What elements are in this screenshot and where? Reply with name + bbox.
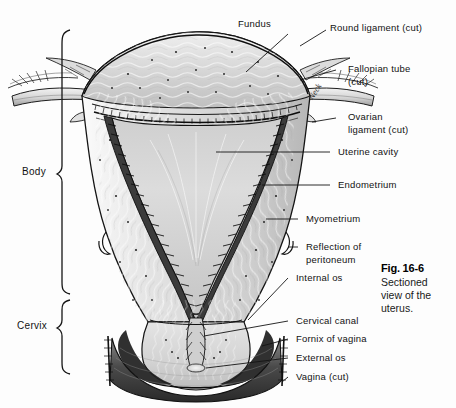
figure-caption-line2: view of the bbox=[381, 289, 453, 302]
label-endometrium: Endometrium bbox=[338, 179, 397, 192]
label-fallopian-tube: Fallopian tube bbox=[348, 63, 410, 76]
label-myometrium: Myometrium bbox=[306, 213, 360, 226]
leader-round-ligament bbox=[300, 30, 326, 46]
label-internal-os: Internal os bbox=[296, 272, 343, 285]
label-fallopian-tube-cut: (cut) bbox=[348, 76, 368, 89]
label-external-os: External os bbox=[296, 352, 346, 365]
bracket-cervix bbox=[57, 300, 70, 374]
bracket-label-body: Body bbox=[22, 166, 46, 177]
figure-caption: Fig. 16-6 Sectioned view of the uterus. bbox=[381, 262, 453, 315]
leader-ovarian-ligament bbox=[312, 118, 336, 122]
label-vagina-cut: Vagina (cut) bbox=[296, 371, 349, 384]
bracket-body bbox=[57, 30, 70, 294]
label-fundus: Fundus bbox=[238, 18, 271, 31]
figure-caption-line3: uterus. bbox=[381, 302, 453, 315]
external-os-shape bbox=[187, 364, 205, 372]
label-reflection-of-peritoneum-line1: Reflection of bbox=[306, 241, 361, 254]
label-reflection-of-peritoneum-line2: peritoneum bbox=[306, 254, 356, 267]
label-ovarian-ligament: Ovarian bbox=[348, 111, 383, 124]
uterus-anatomy-illustration bbox=[0, 0, 456, 408]
label-cervical-canal: Cervical canal bbox=[296, 315, 358, 328]
bracket-label-cervix: Cervix bbox=[17, 320, 47, 331]
label-ovarian-ligament-cut: ligament (cut) bbox=[348, 124, 408, 137]
label-fornix-of-vagina: Fornix of vagina bbox=[296, 333, 367, 346]
label-uterine-cavity: Uterine cavity bbox=[338, 146, 398, 159]
figure-caption-line1: Sectioned bbox=[381, 276, 453, 289]
label-round-ligament-cut: Round ligament (cut) bbox=[330, 22, 422, 35]
figure-sectioned-uterus: Fundus Round ligament (cut) Fallopian tu… bbox=[0, 0, 456, 408]
figure-caption-title: Fig. 16-6 bbox=[381, 262, 453, 275]
